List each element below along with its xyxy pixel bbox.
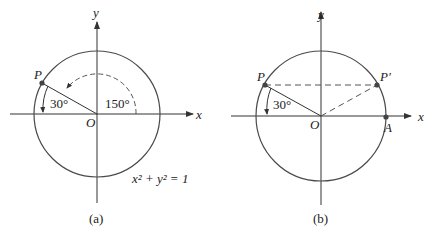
origin-label: O <box>310 117 320 132</box>
unit-circle-figure: P 30° 150° O x y x² + y² = 1 (a) P P′ A … <box>0 0 431 231</box>
point-a <box>383 114 388 119</box>
origin-label: O <box>86 115 96 130</box>
panel-a: P 30° 150° O x y x² + y² = 1 (a) <box>10 5 202 226</box>
point-p-label: P <box>256 69 265 84</box>
angle-150-label: 150° <box>105 96 130 111</box>
y-axis-label: y <box>316 7 324 22</box>
angle-30-arc <box>43 86 48 112</box>
x-axis-label: x <box>195 107 202 122</box>
panel-b: P P′ A 30° O x y (b) <box>231 7 424 226</box>
x-axis-label: x <box>417 109 424 124</box>
dashed-op-prime <box>321 85 377 116</box>
point-p-prime-label: P′ <box>379 69 391 84</box>
point-p-label: P <box>33 67 42 82</box>
angle-30-arc <box>267 88 271 114</box>
caption-a: (a) <box>89 211 103 226</box>
y-axis-label: y <box>91 5 99 20</box>
caption-b: (b) <box>313 211 328 226</box>
angle-30-label: 30° <box>50 96 68 111</box>
point-p-prime <box>374 82 379 87</box>
equation-label: x² + y² = 1 <box>131 171 188 186</box>
point-a-label: A <box>383 120 392 135</box>
angle-30-label: 30° <box>273 97 291 112</box>
